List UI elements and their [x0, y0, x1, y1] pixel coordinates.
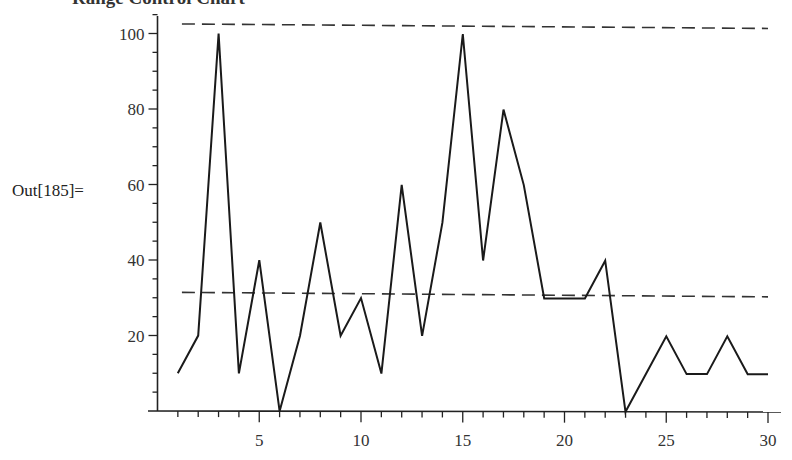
y-tick-label: 80 — [128, 100, 145, 119]
chart-axes: 2040608010051015202530 — [119, 15, 781, 450]
y-tick-label: 60 — [128, 176, 145, 195]
range-series-line — [178, 34, 768, 412]
y-tick-label: 20 — [128, 327, 145, 346]
y-tick-label: 100 — [119, 25, 145, 44]
x-tick-label: 15 — [454, 431, 471, 450]
x-tick-label: 30 — [760, 431, 777, 450]
range-control-chart: 2040608010051015202530 — [0, 0, 792, 460]
x-tick-label: 20 — [556, 431, 573, 450]
center-line — [182, 292, 768, 297]
y-tick-label: 40 — [128, 251, 145, 270]
x-tick-label: 10 — [353, 431, 370, 450]
x-axis-line — [148, 411, 781, 412]
x-tick-label: 5 — [255, 431, 264, 450]
data-series — [178, 34, 768, 412]
x-tick-label: 25 — [658, 431, 675, 450]
upper-control-limit-line — [182, 24, 768, 29]
